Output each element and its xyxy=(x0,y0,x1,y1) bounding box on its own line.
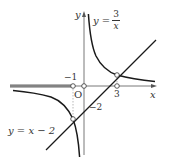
x-marker-origin xyxy=(82,84,87,89)
hyperbola-equation-lhs: y = xyxy=(93,16,110,26)
intersection-point-neg1-neg3 xyxy=(71,117,76,122)
fraction-denominator: x xyxy=(113,22,118,31)
hyperbola-fraction: 3 x xyxy=(112,10,120,31)
tick-label-neg1: −1 xyxy=(64,73,77,82)
x-marker-3 xyxy=(115,84,120,89)
fraction-numerator: 3 xyxy=(113,10,119,19)
tick-label-neg2: −2 xyxy=(89,103,102,112)
origin-label: O xyxy=(74,90,82,100)
hyperbola-branch-negative xyxy=(13,91,80,157)
x-marker-neg1 xyxy=(71,84,76,89)
line-equation-label: y = x − 2 xyxy=(8,126,55,136)
graph-canvas xyxy=(0,0,169,160)
y-axis-arrow-icon xyxy=(82,11,86,17)
x-axis-arrow-icon xyxy=(151,84,157,88)
y-axis-label: y xyxy=(75,10,81,20)
graph-figure: y x O y = 3 x y = x − 2 −1 3 −2 xyxy=(0,0,169,160)
intersection-point-3-1 xyxy=(115,73,120,78)
tick-label-3: 3 xyxy=(114,90,120,99)
x-axis-label: x xyxy=(150,90,156,100)
line-y-equals-x-minus-2 xyxy=(46,40,156,150)
